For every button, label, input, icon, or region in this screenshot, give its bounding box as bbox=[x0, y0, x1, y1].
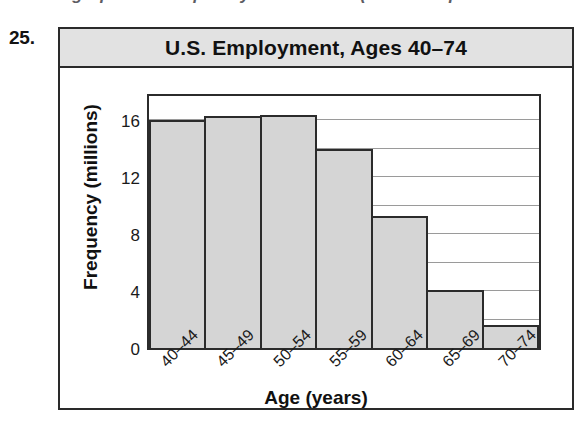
y-axis-tick-labels: 0481216 bbox=[100, 68, 140, 410]
bar bbox=[371, 216, 428, 348]
bar-series bbox=[149, 96, 539, 348]
bar bbox=[149, 120, 206, 348]
y-axis-tick-label: 8 bbox=[110, 227, 140, 244]
y-axis-tick-label: 16 bbox=[110, 113, 140, 130]
chart-title-bar: U.S. Employment, Ages 40–74 bbox=[60, 29, 572, 68]
y-axis-tick-label: 4 bbox=[110, 284, 140, 301]
plot-area bbox=[147, 94, 541, 350]
y-axis-tick-label: 12 bbox=[110, 170, 140, 187]
exercise-number: 25. bbox=[9, 27, 35, 49]
bar bbox=[315, 149, 372, 348]
cut-off-header-label: the graph of a frequency distribution (s… bbox=[40, 0, 475, 5]
y-axis-tick-label: 0 bbox=[110, 341, 140, 358]
chart-title: U.S. Employment, Ages 40–74 bbox=[165, 36, 467, 60]
bar bbox=[260, 115, 317, 348]
bar bbox=[204, 116, 261, 348]
y-axis-title: Frequency (millions) bbox=[80, 82, 102, 312]
chart-figure: U.S. Employment, Ages 40–74 Frequency (m… bbox=[58, 27, 574, 410]
x-axis-title: Age (years) bbox=[60, 387, 572, 409]
cut-off-header-text: the graph of a frequency distribution (s… bbox=[0, 0, 586, 14]
plot-wrapper: Frequency (millions) 0481216 40–4445–495… bbox=[60, 68, 572, 410]
